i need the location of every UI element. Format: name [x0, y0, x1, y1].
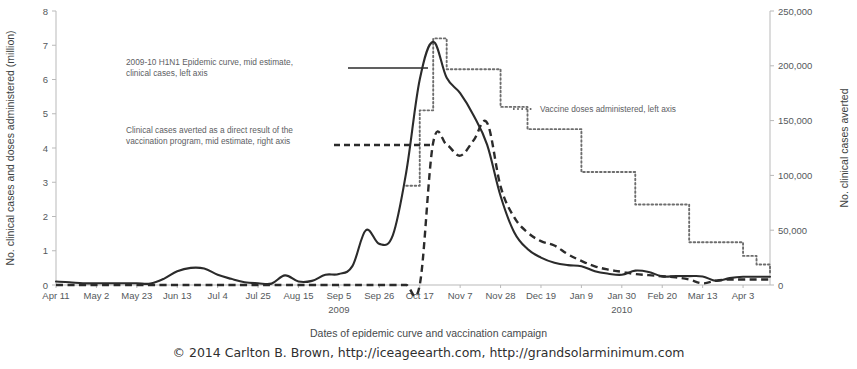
right-tick-label: 0 — [778, 280, 783, 291]
x-tick-label: Apr 3 — [732, 290, 755, 301]
x-tick-label: Oct 17 — [406, 290, 434, 301]
x-tick-label: Jan 30 — [608, 290, 637, 301]
epidemic-annotation-line1: 2009-10 H1N1 Epidemic curve, mid estimat… — [126, 57, 293, 67]
chart-figure: 012345678 No. clinical cases and doses a… — [0, 0, 857, 369]
x-axis-year-label: 2010 — [611, 304, 632, 315]
annotation-epidemic: 2009-10 H1N1 Epidemic curve, mid estimat… — [126, 57, 293, 78]
copyright-text: © 2014 Carlton B. Brown, http://iceageea… — [172, 345, 684, 360]
series-epidemic-curve — [56, 42, 770, 284]
x-tick-label: Jul 25 — [245, 290, 270, 301]
vaccine-annotation-line1: Vaccine doses administered, left axis — [540, 104, 676, 114]
left-axis-title: No. clinical cases and doses administere… — [4, 30, 16, 265]
x-tick-label: Jul 4 — [208, 290, 228, 301]
left-tick-label: 7 — [43, 40, 48, 51]
left-tick-label: 8 — [43, 6, 48, 17]
x-axis-caption-text: Dates of epidemic curve and vaccination … — [310, 327, 547, 339]
x-tick-label: May 2 — [83, 290, 109, 301]
annotation-vaccine: Vaccine doses administered, left axis — [540, 104, 676, 114]
x-axis-year-label: 2009 — [328, 304, 349, 315]
x-tick-label: May 23 — [121, 290, 152, 301]
right-axis-ticks: 050,000100,000150,000200,000250,000 — [770, 6, 812, 291]
copyright-caption: © 2014 Carlton B. Brown, http://iceageea… — [0, 345, 857, 360]
left-tick-label: 3 — [43, 177, 48, 188]
x-tick-label: Aug 15 — [283, 290, 313, 301]
left-tick-label: 6 — [43, 74, 48, 85]
x-axis-caption: Dates of epidemic curve and vaccination … — [0, 327, 857, 339]
right-tick-label: 100,000 — [778, 170, 812, 181]
epidemic-annotation-line2: clinical cases, left axis — [126, 68, 208, 78]
left-axis-ticks: 012345678 — [43, 6, 56, 291]
left-tick-label: 4 — [43, 143, 48, 154]
x-axis-ticks: Apr 11May 2May 23Jun 13Jul 4Jul 25Aug 15… — [42, 285, 754, 301]
x-tick-label: Sep 5 — [326, 290, 351, 301]
x-tick-label: Feb 20 — [647, 290, 677, 301]
right-y-axis: 050,000100,000150,000200,000250,000 No. … — [770, 6, 850, 291]
x-tick-label: Jun 13 — [163, 290, 192, 301]
x-tick-label: Nov 7 — [448, 290, 473, 301]
x-tick-label: Nov 28 — [486, 290, 516, 301]
x-tick-label: Dec 19 — [526, 290, 556, 301]
right-tick-label: 200,000 — [778, 60, 812, 71]
x-tick-label: Jan 9 — [570, 290, 593, 301]
x-tick-label: Mar 13 — [688, 290, 718, 301]
right-tick-label: 250,000 — [778, 6, 812, 17]
averted-annotation-line2: vaccination program, mid estimate, right… — [126, 136, 290, 146]
x-axis: Apr 11May 2May 23Jun 13Jul 4Jul 25Aug 15… — [42, 285, 770, 315]
epidemic-curve-chart: 012345678 No. clinical cases and doses a… — [0, 0, 857, 369]
right-tick-label: 150,000 — [778, 115, 812, 126]
annotation-averted: Clinical cases averted as a direct resul… — [126, 125, 293, 146]
right-tick-label: 50,000 — [778, 225, 807, 236]
x-tick-label: Sep 26 — [364, 290, 394, 301]
x-axis-year-labels: 20092010 — [328, 304, 632, 315]
left-tick-label: 1 — [43, 245, 48, 256]
left-tick-label: 5 — [43, 108, 48, 119]
x-tick-label: Apr 11 — [42, 290, 69, 301]
right-axis-title: No. clinical cases averted — [838, 88, 850, 207]
left-tick-label: 2 — [43, 211, 48, 222]
left-tick-label: 0 — [43, 280, 48, 291]
averted-annotation-line1: Clinical cases averted as a direct resul… — [126, 125, 293, 135]
left-y-axis: 012345678 No. clinical cases and doses a… — [4, 6, 56, 291]
series-cases-averted — [56, 121, 770, 297]
